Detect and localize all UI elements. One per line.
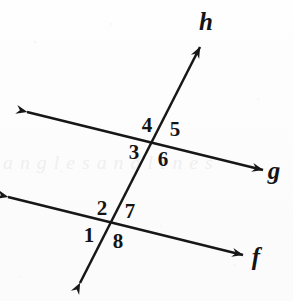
line-g-label: g xyxy=(267,157,281,184)
line-h-segment xyxy=(80,47,200,283)
line-f-label: f xyxy=(252,243,263,270)
angle-7-label: 7 xyxy=(125,199,136,223)
line-f: f xyxy=(8,197,263,270)
angle-3-label: 3 xyxy=(129,140,140,164)
diagram-canvas: g f h 45362718 xyxy=(0,0,293,301)
angle-5-label: 5 xyxy=(170,117,181,141)
angle-2-label: 2 xyxy=(97,196,108,220)
line-h-label: h xyxy=(199,8,213,35)
angle-4-label: 4 xyxy=(142,113,153,137)
angle-1-label: 1 xyxy=(84,223,95,247)
angle-8-label: 8 xyxy=(113,229,124,253)
angle-6-label: 6 xyxy=(158,147,169,171)
line-g: g xyxy=(27,112,280,184)
geometry-figure: g f h 45362718 a n g l e s a n d l i n e… xyxy=(0,0,293,301)
